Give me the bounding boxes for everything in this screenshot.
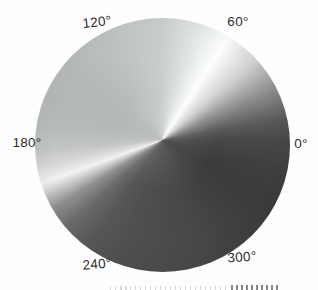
cropped-caption-fragment bbox=[110, 286, 230, 290]
angle-label-240: 240° bbox=[82, 255, 112, 272]
figure-canvas: 120° 60° 180° 0° 240° 300° bbox=[0, 0, 318, 290]
angle-label-120: 120° bbox=[82, 13, 113, 31]
angle-label-300: 300° bbox=[227, 249, 257, 266]
angle-label-180: 180° bbox=[12, 135, 41, 150]
cropped-caption-fragment bbox=[231, 285, 279, 290]
angle-gradient-disk bbox=[35, 18, 290, 272]
angle-label-60: 60° bbox=[227, 14, 248, 29]
angle-label-0: 0° bbox=[294, 136, 308, 151]
